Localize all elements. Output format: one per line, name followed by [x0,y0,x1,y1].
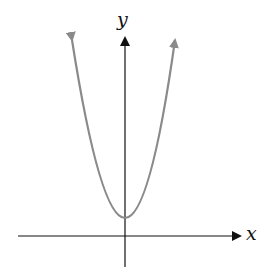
y-axis-label: y [117,10,128,29]
x-axis-label: x [246,224,257,243]
parabola-curve [72,40,175,218]
graph-canvas: y x [0,0,266,269]
graph-svg [0,0,266,269]
